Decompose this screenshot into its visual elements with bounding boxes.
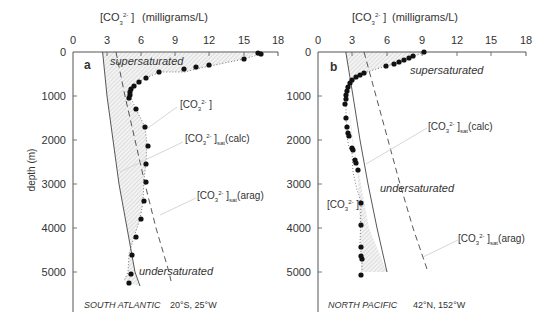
svg-text:4000: 4000	[287, 222, 311, 234]
svg-text:15: 15	[485, 34, 497, 46]
svg-text:3000: 3000	[287, 178, 311, 190]
svg-text:3: 3	[349, 34, 355, 46]
aragonite-saturation-line-b	[364, 52, 428, 272]
location-label-b: NORTH PACIFIC	[328, 300, 398, 310]
y-tick-labels-a: 0 1000 2000 3000 4000 5000	[42, 46, 66, 278]
svg-text:15: 15	[238, 34, 250, 46]
svg-text:5000: 5000	[287, 266, 311, 278]
svg-text:18: 18	[520, 34, 532, 46]
calc-saturation-label-b: [CO32- ]sat(calc)	[428, 121, 493, 134]
coords-label-a: 20°S, 25°W	[170, 300, 217, 310]
svg-text:12: 12	[203, 34, 215, 46]
svg-text:9: 9	[172, 34, 178, 46]
y-axis-label: depth (m)	[26, 149, 37, 192]
x-axis-title-b: [CO32- ]	[352, 11, 386, 26]
undersaturated-label-b: undersaturated	[380, 182, 455, 194]
svg-text:18: 18	[272, 34, 284, 46]
svg-text:6: 6	[384, 34, 390, 46]
data-points-b	[342, 49, 426, 277]
x-axis-title-a: [CO32- ]	[100, 11, 134, 26]
svg-text:1000: 1000	[287, 90, 311, 102]
svg-text:2000: 2000	[42, 134, 66, 146]
supersaturated-label-a: supersaturated	[110, 55, 184, 67]
svg-text:12: 12	[451, 34, 463, 46]
x-tick-labels-b: 0 3 6 9 12 15 18	[315, 34, 532, 46]
co3-label-b: [CO32- ]	[327, 199, 359, 212]
svg-text:3000: 3000	[42, 178, 66, 190]
panel-label-b: b	[330, 60, 337, 74]
panel-label-a: a	[84, 58, 91, 72]
svg-text:9: 9	[419, 34, 425, 46]
location-label-a: SOUTH ATLANTIC	[84, 300, 161, 310]
x-tick-labels-a: 0 3 6 9 12 15 18	[70, 34, 284, 46]
svg-text:0: 0	[315, 34, 321, 46]
svg-text:1000: 1000	[42, 90, 66, 102]
coords-label-b: 42°N, 152°W	[413, 300, 466, 310]
svg-text:5000: 5000	[42, 266, 66, 278]
arag-saturation-label-a: [CO32- ]sat(arag)	[197, 190, 264, 203]
svg-text:6: 6	[138, 34, 144, 46]
arag-saturation-label-b: [CO32- ]sat(arag)	[458, 233, 525, 246]
undersaturated-label-a: undersaturated	[139, 265, 214, 277]
figure: [CO32- ] (milligrams/L) 0 3 6 9 12 15 18…	[0, 0, 558, 332]
svg-text:0: 0	[70, 34, 76, 46]
svg-text:0: 0	[305, 46, 311, 58]
co3-label-a: [CO32- ]	[180, 99, 212, 112]
y-tick-labels-b: 0 1000 2000 3000 4000 5000	[287, 46, 311, 278]
svg-text:2000: 2000	[287, 134, 311, 146]
x-axis-unit-a: (milligrams/L)	[142, 11, 208, 23]
panel-a: [CO32- ] (milligrams/L) 0 3 6 9 12 15 18…	[26, 11, 284, 312]
supersaturated-label-b: supersaturated	[410, 64, 484, 76]
calc-saturation-label-a: [CO32- ]sat(calc)	[185, 133, 250, 146]
svg-text:0: 0	[60, 46, 66, 58]
svg-text:4000: 4000	[42, 222, 66, 234]
x-axis-unit-b: (milligrams/L)	[392, 11, 458, 23]
panel-b: [CO32- ] (milligrams/L) 0 3 6 9 12 15 18…	[287, 11, 533, 312]
data-points-a	[126, 50, 263, 285]
svg-text:3: 3	[104, 34, 110, 46]
